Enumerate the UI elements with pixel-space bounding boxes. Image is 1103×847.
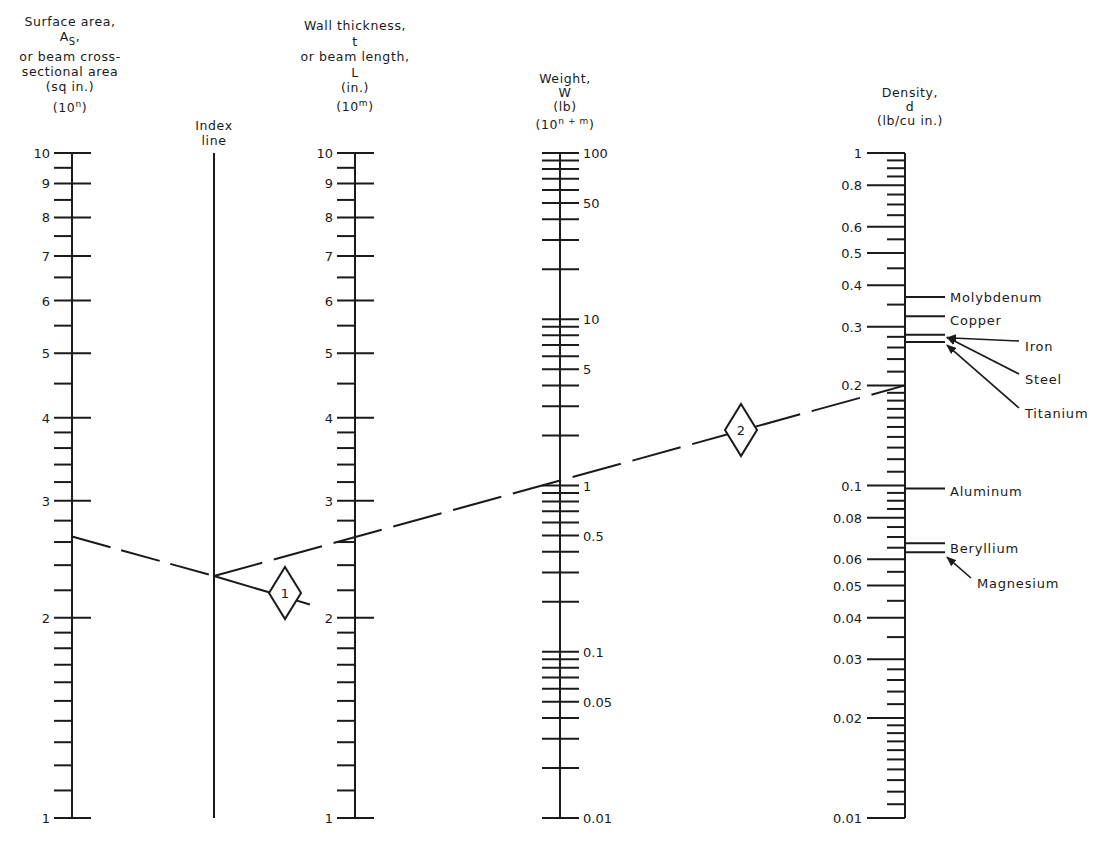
material-label: Titanium: [1024, 406, 1088, 421]
material-arrow: [947, 345, 1019, 408]
tick-label: 0.01: [583, 811, 612, 826]
tick-label: 3: [325, 494, 333, 509]
tick-label: 100: [583, 146, 608, 161]
tick-label: 10: [33, 146, 50, 161]
tick-label: 1: [854, 146, 862, 161]
tick-label: 0.05: [833, 579, 862, 594]
wall-thickness-axis: 12345678910: [316, 146, 374, 826]
tick-label: 9: [42, 176, 50, 191]
material-label: Molybdenum: [950, 290, 1042, 305]
tick-label: 7: [325, 249, 333, 264]
tick-label: 1: [42, 811, 50, 826]
tick-label: 6: [325, 294, 333, 309]
dashed-line-segment: [72, 537, 214, 576]
solution-lines-layer: 12: [72, 385, 905, 619]
tick-label: 0.6: [841, 220, 862, 235]
tick-label: 2: [42, 611, 50, 626]
step-number-label: 2: [737, 423, 745, 438]
density-axis: 0.010.020.030.040.050.060.080.10.20.30.4…: [833, 146, 905, 826]
tick-label: 4: [325, 411, 333, 426]
tick-label: 3: [42, 494, 50, 509]
tick-label: 2: [325, 611, 333, 626]
tick-label: 4: [42, 411, 50, 426]
tick-label: 0.01: [833, 811, 862, 826]
tick-label: 50: [583, 196, 600, 211]
tick-label: 0.08: [833, 511, 862, 526]
material-arrow: [947, 338, 1019, 341]
axes-layer: 12345678910123456789100.010.050.10.51510…: [33, 146, 905, 826]
material-label: Steel: [1025, 372, 1062, 387]
step-number-label: 1: [281, 586, 289, 601]
tick-label: 0.06: [833, 552, 862, 567]
tick-label: 0.1: [841, 479, 862, 494]
weight-axis: 0.010.050.10.5151050100: [542, 146, 612, 826]
material-iron: Iron: [905, 335, 1053, 354]
tick-label: 1: [583, 479, 591, 494]
material-copper: Copper: [905, 313, 1002, 328]
nomogram-chart: 12345678910123456789100.010.050.10.51510…: [0, 0, 1103, 847]
material-beryllium: Beryllium: [905, 541, 1019, 556]
tick-label: 0.8: [841, 178, 862, 193]
material-label: Beryllium: [950, 541, 1019, 556]
tick-label: 0.5: [841, 246, 862, 261]
tick-label: 8: [42, 210, 50, 225]
tick-label: 0.5: [583, 529, 604, 544]
material-magnesium: Magnesium: [905, 552, 1059, 591]
tick-label: 9: [325, 176, 333, 191]
tick-label: 0.03: [833, 652, 862, 667]
material-label: Magnesium: [977, 576, 1059, 591]
tick-label: 5: [42, 346, 50, 361]
tick-label: 0.04: [833, 611, 862, 626]
material-molybdenum: Molybdenum: [905, 290, 1042, 305]
tick-label: 10: [583, 312, 600, 327]
tick-label: 0.02: [833, 711, 862, 726]
material-label: Iron: [1025, 339, 1053, 354]
tick-label: 7: [42, 249, 50, 264]
tick-label: 5: [325, 346, 333, 361]
surface-area-axis: 12345678910: [33, 146, 91, 826]
tick-label: 10: [316, 146, 333, 161]
material-label: Aluminum: [950, 484, 1023, 499]
tick-label: 6: [42, 294, 50, 309]
material-aluminum: Aluminum: [905, 484, 1023, 499]
tick-label: 0.05: [583, 695, 612, 710]
tick-label: 5: [583, 362, 591, 377]
tick-label: 0.4: [841, 278, 862, 293]
material-arrow: [947, 337, 1019, 374]
tick-label: 8: [325, 210, 333, 225]
material-arrow: [947, 557, 971, 578]
materials-layer: MolybdenumCopperIronSteelTitaniumAluminu…: [905, 290, 1088, 591]
tick-label: 0.1: [583, 645, 604, 660]
tick-label: 1: [325, 811, 333, 826]
tick-label: 0.3: [841, 320, 862, 335]
tick-label: 0.2: [841, 378, 862, 393]
material-label: Copper: [950, 313, 1002, 328]
